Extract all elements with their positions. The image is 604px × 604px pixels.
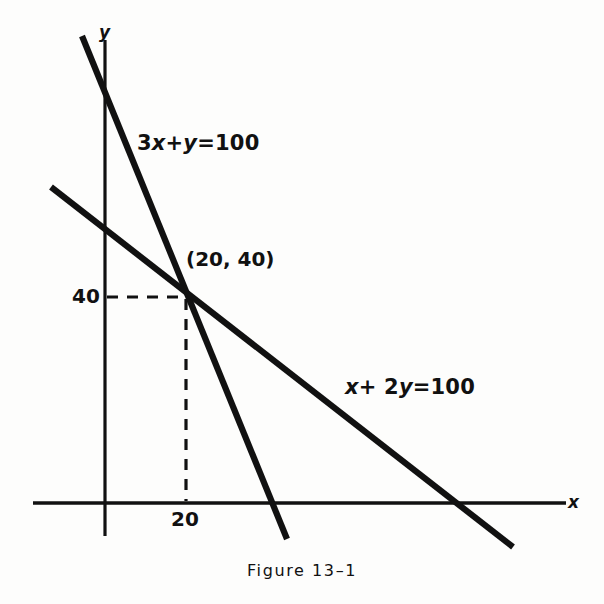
eq-shallow-operator: + 2 <box>359 375 399 399</box>
y-axis-label: y <box>99 24 110 41</box>
eq-steep-coefficient: 3 <box>137 131 152 155</box>
eq-shallow-equals-value: =100 <box>413 375 475 399</box>
equation-label-shallow-line: x+ 2y=100 <box>345 377 475 398</box>
eq-shallow-variable-x: x <box>345 375 359 399</box>
figure-caption: Figure 13–1 <box>0 561 604 580</box>
eq-steep-variable-x: x <box>152 131 166 155</box>
intersection-point-label: (20, 40) <box>186 249 275 269</box>
x-axis-label: x <box>568 494 579 511</box>
equation-label-steep-line: 3x+y=100 <box>137 133 259 154</box>
x-axis-tick-label-20: 20 <box>171 509 199 529</box>
line-x-plus-2y-equals-100 <box>51 187 513 547</box>
eq-steep-variable-y: y <box>183 131 197 155</box>
y-axis-tick-label-40: 40 <box>72 286 100 306</box>
eq-steep-equals-value: =100 <box>197 131 259 155</box>
figure-container: y x 3x+y=100 x+ 2y=100 (20, 40) 40 20 Fi… <box>0 0 604 604</box>
eq-steep-operator: + <box>166 131 184 155</box>
eq-shallow-variable-y: y <box>399 375 413 399</box>
